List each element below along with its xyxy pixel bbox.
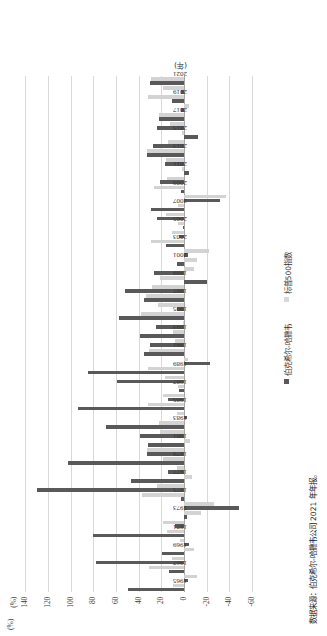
bar-berkshire [93, 534, 184, 538]
bar-berkshire [37, 488, 184, 492]
bar-group [14, 212, 252, 221]
y-tick-label: -60 [248, 597, 256, 606]
bar-group [14, 456, 252, 465]
x-tick-label: 1983 [173, 414, 187, 421]
bar-group [14, 293, 252, 302]
y-axis-title: (%) [6, 619, 15, 630]
bar-berkshire [181, 497, 184, 501]
x-tick-label: 2007 [173, 197, 187, 204]
x-tick-label: 1999 [173, 269, 187, 276]
bar-group [14, 438, 252, 447]
y-tick-label: 40 [135, 597, 143, 604]
bar-group [14, 148, 252, 157]
bar-group [14, 230, 252, 239]
bar-group [14, 139, 252, 148]
bar-berkshire [144, 353, 184, 357]
bar-group [14, 167, 252, 176]
bar-group [14, 221, 252, 230]
bar-berkshire [172, 99, 184, 103]
x-tick-label: 2017 [173, 106, 187, 113]
x-tick-label: 1969 [173, 541, 187, 548]
bar-berkshire [184, 135, 198, 139]
x-tick-label: 1975 [173, 486, 187, 493]
x-tick-label: 1973 [173, 504, 187, 511]
bar-berkshire [179, 389, 184, 393]
legend-swatch-icon [284, 379, 289, 384]
bar-group [14, 483, 252, 492]
bar-group [14, 511, 252, 520]
bar-group [14, 76, 252, 85]
bar-berkshire [166, 244, 184, 248]
bar-berkshire [159, 117, 184, 121]
bar-group [14, 393, 252, 402]
legend-item[interactable]: 标普500指数 [282, 252, 293, 302]
bar-group [14, 121, 252, 130]
bar-berkshire [140, 334, 184, 338]
y-tick-label: -20 [203, 597, 211, 606]
bar-berkshire [183, 226, 184, 230]
bar-group [14, 239, 252, 248]
bar-berkshire [128, 588, 184, 592]
bar-group [14, 429, 252, 438]
bar-group [14, 384, 252, 393]
bar-group [14, 520, 252, 529]
y-tick-label: 100 [67, 597, 75, 608]
x-tick-label: 1991 [173, 341, 187, 348]
bar-berkshire [184, 280, 207, 284]
legend-swatch-icon [284, 297, 289, 302]
bar-berkshire [177, 262, 184, 266]
y-tick-label: -40 [226, 597, 234, 606]
bar-berkshire [162, 552, 184, 556]
x-tick-label: 1997 [173, 287, 187, 294]
legend-label: 标普500指数 [284, 252, 293, 294]
bar-group [14, 185, 252, 194]
bar-group [14, 529, 252, 538]
bar-berkshire [147, 153, 184, 157]
bar-berkshire [78, 407, 184, 411]
y-tick-label: 120 [44, 597, 52, 608]
chart-legend: 伯克希尔-哈撒韦标普500指数 [282, 0, 293, 636]
y-tick-label: 60 [112, 597, 120, 604]
bar-berkshire [184, 171, 189, 175]
bar-group [14, 302, 252, 311]
plot-area: (%)140120100806040200-20-40-601965196719… [14, 76, 252, 592]
x-tick-label: 1979 [173, 450, 187, 457]
y-tick-label: 140 [22, 597, 30, 608]
y-tick-label: (%) [10, 597, 18, 608]
bar-group [14, 103, 252, 112]
bar-berkshire [148, 443, 184, 447]
rotated-page-wrapper: (%) (%)140120100806040200-20-40-60196519… [0, 0, 327, 636]
bar-berkshire [184, 199, 220, 203]
bar-group [14, 402, 252, 411]
bar-berkshire [88, 371, 184, 375]
bar-group [14, 257, 252, 266]
bar-group [14, 320, 252, 329]
legend-item[interactable]: 伯克希尔-哈撒韦 [282, 324, 293, 384]
bar-group [14, 565, 252, 574]
bar-berkshire [106, 425, 184, 429]
x-tick-label: 1967 [173, 559, 187, 566]
bar-group [14, 176, 252, 185]
bar-group [14, 266, 252, 275]
bar-berkshire [96, 561, 184, 565]
bar-group [14, 447, 252, 456]
bar-berkshire [184, 515, 187, 519]
x-tick-label: 2019 [173, 88, 187, 95]
x-tick-label: 1993 [173, 323, 187, 330]
x-tick-label: 2015 [173, 124, 187, 131]
bar-group [14, 357, 252, 366]
y-tick-label: 0 [180, 597, 188, 601]
bar-berkshire [119, 316, 184, 320]
bar-group [14, 492, 252, 501]
x-tick-label: 1981 [173, 432, 187, 439]
bar-group [14, 194, 252, 203]
bar-group [14, 501, 252, 510]
x-tick-label: 2009 [173, 179, 187, 186]
chart-board: (%) (%)140120100806040200-20-40-60196519… [0, 0, 327, 636]
bar-group [14, 411, 252, 420]
bar-berkshire [181, 190, 184, 194]
bar-group [14, 112, 252, 121]
legend-label: 伯克希尔-哈撒韦 [284, 324, 293, 376]
x-tick-label: 1977 [173, 468, 187, 475]
bar-berkshire [131, 479, 184, 483]
